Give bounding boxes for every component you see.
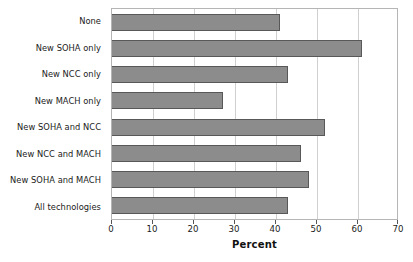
x-axis-tick-labels: 010203040506070 — [111, 224, 398, 238]
bar-slot — [112, 167, 397, 193]
category-label: New MACH only — [0, 88, 106, 115]
x-tick-label: 20 — [188, 224, 199, 234]
bar-slot — [112, 193, 397, 219]
category-label: New SOHA and NCC — [0, 114, 106, 141]
bar — [111, 92, 223, 109]
bar — [111, 66, 288, 83]
category-label: New SOHA only — [0, 35, 106, 62]
bar-series — [112, 9, 397, 219]
bar-slot — [112, 88, 397, 114]
x-axis-title: Percent — [111, 239, 398, 250]
category-label: New NCC and MACH — [0, 141, 106, 168]
bar — [111, 40, 362, 57]
x-tick-label: 0 — [108, 224, 113, 234]
bar-slot — [112, 140, 397, 166]
category-label: None — [0, 8, 106, 35]
category-label: All technologies — [0, 194, 106, 221]
bar-slot — [112, 35, 397, 61]
bar-slot — [112, 62, 397, 88]
category-label: New SOHA and MACH — [0, 167, 106, 194]
bar-chart: None New SOHA only New NCC only New MACH… — [0, 0, 413, 262]
x-tick-label: 30 — [229, 224, 240, 234]
x-tick-label: 40 — [270, 224, 281, 234]
category-axis-labels: None New SOHA only New NCC only New MACH… — [0, 8, 106, 220]
bar-slot — [112, 114, 397, 140]
x-tick-label: 10 — [147, 224, 158, 234]
x-tick-label: 50 — [311, 224, 322, 234]
bar — [111, 145, 301, 162]
bar — [111, 197, 288, 214]
bar — [111, 119, 325, 136]
x-tick-label: 70 — [393, 224, 404, 234]
bar — [111, 171, 309, 188]
bar — [111, 14, 280, 31]
x-tick-label: 60 — [352, 224, 363, 234]
category-label: New NCC only — [0, 61, 106, 88]
bar-slot — [112, 9, 397, 35]
plot-area — [111, 8, 398, 220]
